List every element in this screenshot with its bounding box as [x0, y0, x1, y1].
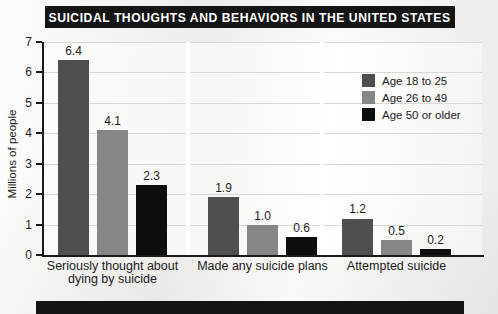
legend-swatch	[362, 108, 375, 121]
legend-item: Age 26 to 49	[362, 89, 461, 106]
bar	[286, 237, 317, 255]
y-axis-tick-label: 1	[18, 218, 32, 232]
bar-value-label: 1.9	[202, 181, 245, 195]
legend-label: Age 50 or older	[382, 109, 461, 121]
y-axis-tick-label: 0	[18, 248, 32, 262]
bar-value-label: 4.1	[91, 114, 134, 128]
bar-value-label: 0.5	[375, 224, 418, 238]
y-axis-tick	[36, 193, 42, 195]
bar-value-label: 0.2	[414, 233, 457, 247]
bar-value-label: 2.3	[130, 169, 173, 183]
legend-swatch	[362, 91, 375, 104]
legend-swatch	[362, 74, 375, 87]
y-axis-tick-label: 5	[18, 96, 32, 110]
chart-legend: Age 18 to 25Age 26 to 49Age 50 or older	[362, 72, 461, 123]
bar-value-label: 6.4	[52, 44, 95, 58]
legend-label: Age 18 to 25	[382, 75, 447, 87]
bar	[58, 60, 89, 255]
y-axis-tick	[36, 254, 42, 256]
x-axis	[42, 255, 484, 257]
bar	[247, 225, 278, 255]
y-axis-tick	[36, 163, 42, 165]
y-axis-tick	[36, 102, 42, 104]
page-title: SUICIDAL THOUGHTS AND BEHAVIORS IN THE U…	[49, 10, 451, 25]
bar	[208, 197, 239, 255]
y-axis-tick	[36, 41, 42, 43]
y-axis-tick-label: 4	[18, 126, 32, 140]
bar	[136, 185, 167, 255]
y-axis-tick-label: 2	[18, 187, 32, 201]
y-axis-tick	[36, 71, 42, 73]
y-axis-tick	[36, 224, 42, 226]
x-axis-category-label: Attempted suicide	[317, 260, 477, 273]
legend-label: Age 26 to 49	[382, 92, 447, 104]
x-axis-category-label: Seriously thought aboutdying by suicide	[33, 260, 193, 286]
bar-value-label: 1.0	[241, 209, 284, 223]
gridline	[42, 42, 482, 43]
chart-title-banner: SUICIDAL THOUGHTS AND BEHAVIORS IN THE U…	[45, 6, 455, 28]
bar	[97, 130, 128, 255]
y-axis-tick-label: 7	[18, 35, 32, 49]
y-axis-tick-label: 6	[18, 65, 32, 79]
y-axis-tick	[36, 132, 42, 134]
legend-item: Age 18 to 25	[362, 72, 461, 89]
category-label-line: dying by suicide	[33, 273, 193, 286]
bar-value-label: 0.6	[280, 221, 323, 235]
y-axis-tick-label: 3	[18, 157, 32, 171]
legend-item: Age 50 or older	[362, 106, 461, 123]
y-axis-title: Millions of people	[6, 94, 18, 214]
group-separator	[186, 42, 190, 255]
footer-bar	[36, 301, 464, 314]
bar	[381, 240, 412, 255]
y-axis	[42, 42, 44, 256]
bar-value-label: 1.2	[336, 202, 379, 216]
bar	[342, 219, 373, 256]
category-label-line: Attempted suicide	[317, 260, 477, 273]
